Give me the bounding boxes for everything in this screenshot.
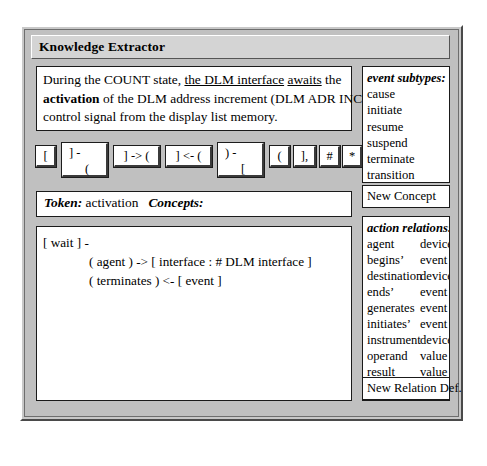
palette-button-close-bracket-arrow-right-paren[interactable]: ] -> ( — [114, 146, 160, 167]
palette-button-label: * — [344, 150, 360, 163]
action-relation-row[interactable]: instrumentdevice — [367, 332, 449, 348]
window-client-area: Knowledge Extractor During the COUNT sta… — [24, 29, 459, 417]
palette-button-label: ) - — [219, 147, 262, 160]
action-relation-name: instrument — [367, 332, 420, 348]
sentence-line-3: control signal from the display list mem… — [43, 108, 345, 127]
action-relation-type: device — [420, 236, 450, 252]
event-subtypes-header: event subtypes: — [367, 70, 449, 86]
syntax-palette-toolbar: [] -(] -> (] <- () -[(],#*: — [36, 143, 356, 183]
action-relation-name: begins’ — [367, 252, 420, 268]
palette-button-label: ] - — [63, 147, 106, 160]
knowledge-extractor-window: Knowledge Extractor During the COUNT sta… — [20, 25, 463, 421]
action-relation-row[interactable]: generatesevent — [367, 300, 449, 316]
palette-button-label: ( — [271, 150, 288, 163]
event-subtype-item[interactable]: cause — [367, 86, 449, 102]
action-relation-name: agent — [367, 236, 420, 252]
palette-button-close-bracket-comma[interactable]: ], — [294, 146, 316, 167]
palette-button-open-paren[interactable]: ( — [270, 146, 290, 167]
token-value: activation — [86, 195, 139, 210]
sentence-line1-prefix: During the COUNT state, — [43, 72, 184, 87]
event-subtype-item[interactable]: transition — [367, 167, 449, 183]
sentence-line2-rest: of the DLM address increment (DLM ADR IN… — [100, 91, 367, 106]
action-relation-row[interactable]: destinationdevice — [367, 268, 449, 284]
palette-button-asterisk[interactable]: * — [343, 146, 362, 167]
palette-button-label: [ — [37, 150, 54, 163]
action-relation-row[interactable]: initiates’event — [367, 316, 449, 332]
action-relation-type: event — [420, 252, 447, 268]
sentence-line1-suffix: the — [322, 72, 342, 87]
event-subtype-item[interactable]: terminate — [367, 151, 449, 167]
frame-line: ( agent ) -> [ interface : # DLM interfa… — [43, 252, 351, 271]
sentence-line-2: activation of the DLM address increment … — [43, 90, 345, 109]
action-relation-name: generates — [367, 300, 420, 316]
sentence-token-activation[interactable]: activation — [43, 91, 100, 106]
token-concepts-bar[interactable]: Token: activation Concepts: — [36, 191, 352, 217]
event-subtypes-items: causeinitiateresumesuspendterminatetrans… — [367, 86, 449, 183]
palette-button-label: ], — [295, 150, 314, 163]
action-relation-type: value — [420, 348, 447, 364]
action-relation-name: operand — [367, 348, 420, 364]
palette-button-open-bracket[interactable]: [ — [36, 146, 56, 167]
source-sentence-panel[interactable]: During the COUNT state, the DLM interfac… — [36, 66, 352, 131]
token-label: Token: — [44, 195, 82, 210]
action-relation-type: device — [420, 268, 450, 284]
event-subtype-item[interactable]: suspend — [367, 135, 449, 151]
action-relation-name: destination — [367, 268, 420, 284]
palette-button-close-bracket-dash-paren[interactable]: ] -( — [62, 143, 108, 177]
sentence-line-1: During the COUNT state, the DLM interfac… — [43, 71, 345, 90]
token-gap — [138, 195, 148, 210]
frame-line: ( terminates ) <- [ event ] — [43, 271, 351, 290]
event-subtype-item[interactable]: initiate — [367, 102, 449, 118]
palette-button-hash[interactable]: # — [320, 146, 340, 167]
action-relation-type: device — [420, 332, 450, 348]
palette-button-label-line2: [ — [219, 163, 262, 176]
palette-button-label-line2: ( — [63, 163, 106, 176]
palette-button-label: ] <- ( — [167, 150, 210, 163]
action-relation-type: event — [420, 316, 447, 332]
action-relation-row[interactable]: ends’event — [367, 284, 449, 300]
window-title: Knowledge Extractor — [39, 39, 165, 55]
palette-button-close-paren-dash-open-bracket[interactable]: ) -[ — [218, 143, 264, 177]
action-relation-name: ends’ — [367, 284, 420, 300]
palette-button-close-bracket-arrow-left-paren[interactable]: ] <- ( — [166, 146, 212, 167]
action-relation-row[interactable]: agentdevice — [367, 236, 449, 252]
palette-button-label: ] -> ( — [115, 150, 158, 163]
action-relation-row[interactable]: begins’event — [367, 252, 449, 268]
action-relation-type: event — [420, 300, 447, 316]
palette-button-label: # — [321, 150, 338, 163]
action-relation-row[interactable]: operandvalue — [367, 348, 449, 364]
action-relations-listbox[interactable]: action relations: agentdevicebegins’even… — [362, 216, 450, 401]
action-relation-name: initiates’ — [367, 316, 420, 332]
action-relations-header: action relations: — [367, 220, 449, 236]
new-concept-button[interactable]: New Concept — [362, 185, 450, 208]
sentence-link-dlm-interface[interactable]: the DLM interface — [184, 72, 284, 87]
sentence-link-awaits[interactable]: awaits — [287, 72, 321, 87]
frame-line: [ wait ] - — [43, 233, 351, 252]
concepts-label: Concepts: — [148, 195, 203, 210]
new-relation-def-button[interactable]: New Relation Def. — [362, 377, 450, 400]
event-subtype-item[interactable]: resume — [367, 119, 449, 135]
event-subtypes-listbox[interactable]: event subtypes: causeinitiateresumesuspe… — [362, 66, 450, 183]
frame-output-panel[interactable]: [ wait ] - ( agent ) -> [ interface : # … — [36, 226, 352, 401]
title-bar: Knowledge Extractor — [31, 35, 450, 59]
action-relation-type: event — [420, 284, 447, 300]
